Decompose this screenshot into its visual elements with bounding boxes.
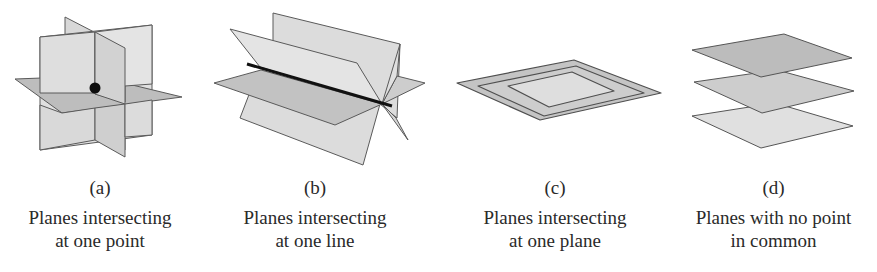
caption-line: at one plane bbox=[440, 229, 670, 252]
panel-d: (d) Planes with no point in common bbox=[670, 0, 877, 272]
panel-caption: Planes with no point in common bbox=[670, 206, 877, 252]
panel-letter: (c) bbox=[440, 177, 670, 199]
caption-line: in common bbox=[670, 229, 877, 252]
panel-caption: Planes intersecting at one plane bbox=[440, 206, 670, 252]
panel-letter: (d) bbox=[670, 177, 877, 199]
caption-line: Planes intersecting bbox=[200, 206, 430, 229]
panel-c: (c) Planes intersecting at one plane bbox=[440, 0, 670, 272]
panel-letter: (a) bbox=[0, 177, 200, 199]
panel-b: (b) Planes intersecting at one line bbox=[200, 0, 430, 272]
caption-line: Planes intersecting bbox=[0, 206, 200, 229]
caption-line: at one point bbox=[0, 229, 200, 252]
panel-caption: Planes intersecting at one line bbox=[200, 206, 430, 252]
caption-line: Planes with no point bbox=[670, 206, 877, 229]
panel-a: (a) Planes intersecting at one point bbox=[0, 0, 200, 272]
three-planes-point-illustration bbox=[0, 0, 200, 175]
parallel-planes-illustration bbox=[670, 0, 877, 175]
three-planes-line-illustration bbox=[200, 0, 430, 175]
intersection-point bbox=[90, 83, 101, 94]
panel-caption: Planes intersecting at one point bbox=[0, 206, 200, 252]
panel-letter: (b) bbox=[200, 177, 430, 199]
caption-line: Planes intersecting bbox=[440, 206, 670, 229]
coincident-planes-illustration bbox=[440, 0, 670, 175]
caption-line: at one line bbox=[200, 229, 430, 252]
